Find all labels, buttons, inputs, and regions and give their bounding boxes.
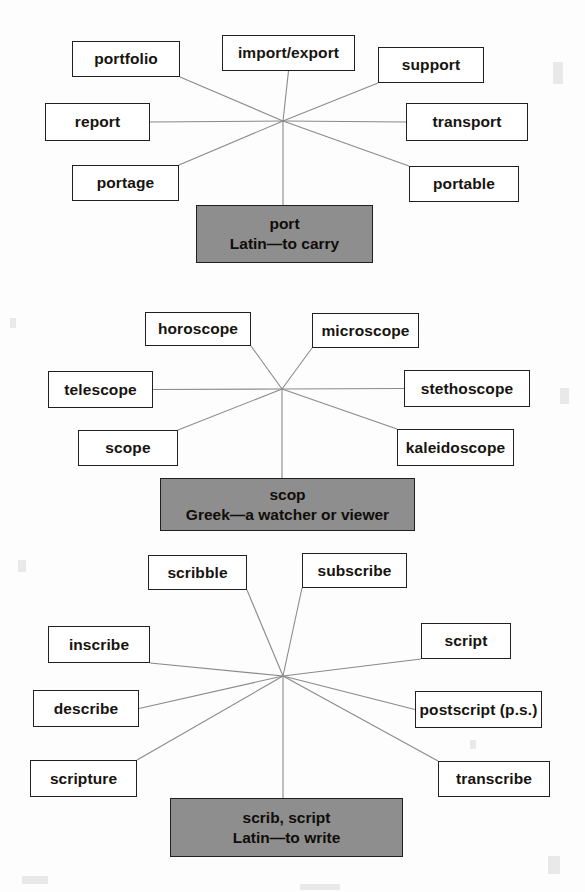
word-web-scrib-web: scribblesubscribeinscribescriptdescribep… <box>0 0 585 892</box>
word-box-label: postscript (p.s.) <box>418 702 540 718</box>
connector-line <box>150 663 283 676</box>
connector-line <box>247 590 283 676</box>
word-box-label: script <box>443 633 490 649</box>
word-box[interactable]: subscribe <box>302 553 407 588</box>
word-box[interactable]: scribble <box>148 555 247 590</box>
word-box-label: subscribe <box>315 563 393 579</box>
connector-line <box>283 659 421 676</box>
root-word: scrib, script <box>243 808 331 828</box>
word-box-label: describe <box>52 701 121 717</box>
word-box-label: scripture <box>48 771 119 787</box>
word-box-label: transcribe <box>454 771 534 787</box>
word-box[interactable]: script <box>421 623 511 659</box>
word-box-label: scribble <box>165 565 229 581</box>
connector-line <box>137 676 283 760</box>
word-box[interactable]: transcribe <box>438 761 550 797</box>
word-box[interactable]: scripture <box>30 760 137 797</box>
word-web-page: portfolioimport/exportsupportreporttrans… <box>0 0 585 892</box>
word-box[interactable]: describe <box>33 690 139 727</box>
root-word-box[interactable]: scrib, scriptLatin—to write <box>170 798 403 857</box>
word-box[interactable]: inscribe <box>48 626 150 663</box>
root-origin: Latin—to write <box>233 828 341 848</box>
word-box-label: inscribe <box>67 637 131 653</box>
word-box[interactable]: postscript (p.s.) <box>415 691 542 728</box>
connector-line <box>139 676 283 709</box>
connector-line <box>283 588 302 676</box>
connector-line <box>283 676 415 710</box>
connector-lines <box>0 0 585 892</box>
